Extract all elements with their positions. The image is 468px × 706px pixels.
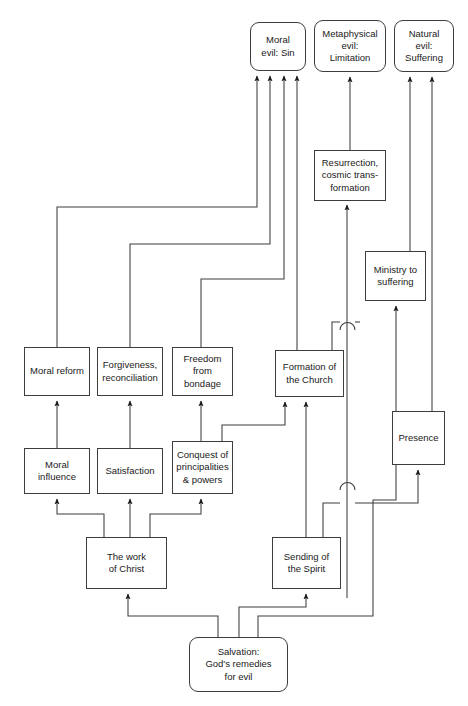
node-moral-reform[interactable]: Moral reform	[24, 347, 90, 396]
edge-work-to-conquest	[150, 499, 201, 537]
node-forgiveness-reconciliation-label: Forgiveness,reconciliation	[102, 359, 157, 383]
edge-salvation-to-work-of-christ	[128, 594, 218, 637]
edge-work-to-moral-influence	[57, 499, 104, 537]
node-moral-influence-label: Moralinfluence	[38, 459, 76, 483]
node-satisfaction[interactable]: Satisfaction	[97, 448, 163, 494]
node-metaphysical-evil[interactable]: Metaphysicalevil:Limitation	[314, 20, 386, 72]
node-formation-of-the-church-label: Formation ofthe Church	[283, 361, 336, 385]
node-resurrection-label: Resurrection,cosmic trans-formation	[322, 157, 379, 194]
node-the-work-of-christ-label: The workof Christ	[107, 551, 146, 575]
node-metaphysical-evil-label: Metaphysicalevil:Limitation	[322, 28, 377, 65]
node-the-work-of-christ[interactable]: The workof Christ	[86, 537, 167, 589]
edge-conquest-to-formation	[222, 402, 285, 441]
edge-sending-spirit-to-presence-tail	[355, 470, 418, 503]
node-moral-reform-label: Moral reform	[30, 365, 84, 377]
edge-sending-spirit-to-presence	[323, 503, 340, 537]
node-salvation-label: Salvation:God's remediesfor evil	[205, 646, 271, 683]
edge-moral-reform-to-moral-evil	[57, 76, 257, 347]
node-freedom-from-bondage-label: Freedomfrombondage	[183, 353, 221, 390]
node-natural-evil[interactable]: Naturalevil:Suffering	[394, 20, 454, 72]
node-ministry-to-suffering[interactable]: Ministry tosuffering	[365, 251, 426, 301]
node-ministry-to-suffering-label: Ministry tosuffering	[374, 264, 417, 288]
node-sending-of-the-spirit[interactable]: Sending ofthe Spirit	[272, 537, 341, 589]
edge-salvation-to-right-riser	[258, 598, 373, 637]
node-satisfaction-label: Satisfaction	[105, 465, 154, 477]
edge-forgiveness-to-moral-evil	[130, 76, 270, 347]
node-forgiveness-reconciliation[interactable]: Forgiveness,reconciliation	[97, 347, 163, 396]
node-conquest-of-principalities-label: Conquest ofprincipalities& powers	[176, 449, 228, 486]
node-freedom-from-bondage[interactable]: Freedomfrombondage	[172, 347, 233, 396]
node-presence[interactable]: Presence	[392, 411, 445, 465]
node-salvation[interactable]: Salvation:God's remediesfor evil	[189, 637, 288, 692]
node-moral-influence[interactable]: Moralinfluence	[24, 448, 90, 494]
edge-freedom-to-moral-evil	[201, 76, 284, 347]
node-natural-evil-label: Naturalevil:Suffering	[405, 28, 443, 65]
node-presence-label: Presence	[398, 432, 438, 444]
node-conquest-of-principalities[interactable]: Conquest ofprincipalities& powers	[172, 441, 233, 494]
diagram-canvas: Moralevil: Sin Metaphysicalevil:Limitati…	[0, 0, 468, 706]
node-sending-of-the-spirit-label: Sending ofthe Spirit	[284, 551, 329, 575]
node-resurrection[interactable]: Resurrection,cosmic trans-formation	[314, 150, 386, 201]
node-moral-evil-label: Moralevil: Sin	[261, 34, 294, 58]
edge-formation-to-resurrection	[332, 322, 340, 350]
node-formation-of-the-church[interactable]: Formation ofthe Church	[275, 350, 344, 397]
node-moral-evil[interactable]: Moralevil: Sin	[250, 22, 306, 71]
